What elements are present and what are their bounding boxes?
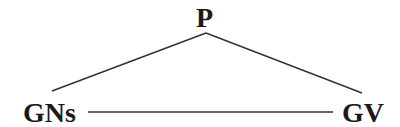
node-label-p: P [196,4,213,32]
diagram-canvas: P GNs GV [0,0,400,127]
edge-p-to-gv [206,33,362,93]
node-label-gv: GV [342,99,384,127]
edge-p-to-gns [52,33,206,91]
node-label-gns: GNs [23,99,76,127]
